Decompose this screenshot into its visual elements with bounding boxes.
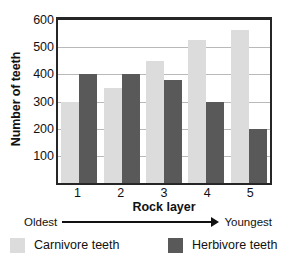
bar-group-2 [104, 20, 140, 183]
x-tick-label: 3 [146, 186, 182, 200]
bar-herbivore-layer-3 [164, 80, 182, 183]
bar-herbivore-layer-2 [122, 74, 140, 183]
legend-swatch-icon [10, 238, 25, 253]
legend-label: Herbivore teeth [192, 238, 277, 252]
oldest-label: Oldest [24, 216, 57, 228]
age-direction-row: Oldest Youngest [24, 214, 272, 230]
bar-group-5 [231, 20, 267, 183]
bar-carnivore-layer-3 [146, 61, 164, 183]
x-tick-label: 4 [189, 186, 225, 200]
age-arrow-icon [62, 217, 219, 227]
bar-herbivore-layer-5 [249, 129, 267, 183]
bar-herbivore-layer-1 [79, 74, 97, 183]
bar-group-4 [188, 20, 224, 183]
bar-groups [58, 20, 270, 183]
arrow-head-icon [211, 217, 219, 227]
x-tick-label: 2 [103, 186, 139, 200]
chart-legend: Carnivore teethHerbivore teeth [10, 236, 282, 254]
bar-carnivore-layer-5 [231, 30, 249, 183]
y-tick-label: 400 [16, 68, 54, 81]
y-tick-label: 100 [16, 150, 54, 163]
legend-item-herbivore: Herbivore teeth [168, 238, 277, 253]
bar-group-1 [61, 20, 97, 183]
legend-swatch-icon [168, 238, 183, 253]
bar-carnivore-layer-2 [104, 88, 122, 183]
y-axis-tick-labels: 100200300400500600 [16, 0, 54, 200]
bar-group-3 [146, 20, 182, 183]
youngest-label: Youngest [224, 216, 272, 228]
y-tick-label: 500 [16, 41, 54, 54]
arrow-line [62, 221, 212, 223]
bar-herbivore-layer-4 [206, 102, 224, 184]
plot-area [56, 17, 272, 185]
x-tick-label: 5 [232, 186, 268, 200]
bar-carnivore-layer-1 [61, 102, 79, 184]
legend-label: Carnivore teeth [34, 238, 119, 252]
x-axis-title: Rock layer [56, 200, 272, 214]
bar-chart-figure: Number of teeth 100200300400500600 12345… [0, 0, 289, 261]
y-tick-label: 600 [16, 14, 54, 27]
y-tick-label: 300 [16, 95, 54, 108]
bar-carnivore-layer-4 [188, 40, 206, 183]
y-tick-label: 200 [16, 122, 54, 135]
x-tick-label: 1 [60, 186, 96, 200]
legend-item-carnivore: Carnivore teeth [10, 238, 168, 253]
